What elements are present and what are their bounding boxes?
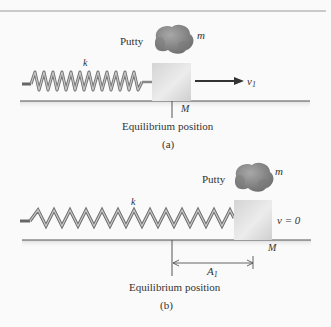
block-a [152,63,191,101]
amplitude-symbol-b: A [207,265,214,277]
floor-shade-a [20,101,310,109]
equilibrium-label-b: Equilibrium position [129,282,220,293]
spring-b [20,210,234,226]
amplitude-subscript-b: 1 [214,270,218,279]
caption-b: (b) [160,300,173,311]
amplitude-label-b: A1 [207,266,218,279]
spring-constant-label-b: k [131,197,135,207]
velocity-label-b: v = 0 [277,215,300,226]
mass-label-m-b: m [275,166,283,177]
spring-mass-diagram [0,0,331,327]
block-mass-label-b: M [268,243,276,253]
putty-a [155,25,194,54]
equilibrium-label-a: Equilibrium position [122,121,213,132]
velocity-subscript-a: 1 [252,80,256,89]
velocity-label-a: v1 [247,76,256,89]
block-mass-label-a: M [181,104,189,114]
velocity-arrow-a [195,77,244,85]
spring-constant-label-a: k [83,58,87,68]
panel-b [20,163,311,276]
mass-label-m-a: m [197,30,205,41]
putty-label-b: Putty [202,174,225,185]
block-b [234,200,272,240]
putty-label-a: Putty [120,36,143,47]
caption-a: (a) [162,139,174,150]
spring-a [22,72,152,90]
panel-a [20,25,310,118]
putty-b [235,163,274,192]
